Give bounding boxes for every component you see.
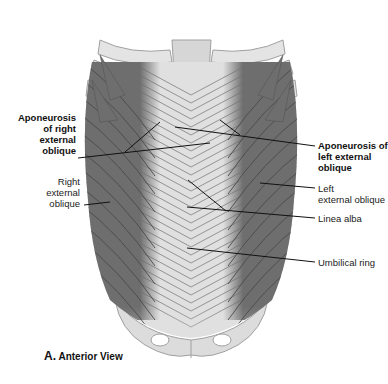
label-aponeurosis-left-external-oblique: Aponeurosis of left external oblique — [318, 140, 388, 173]
label-right-external-oblique: Right external oblique — [8, 176, 80, 209]
caption-letter: A. — [44, 349, 56, 363]
caption-text: Anterior View — [58, 351, 122, 362]
label-aponeurosis-right-external-oblique: Aponeurosis of right external oblique — [8, 112, 76, 156]
label-left-external-oblique: Left external oblique — [318, 183, 388, 205]
left-external-oblique-muscle — [223, 60, 303, 320]
figure-caption: A. Anterior View — [44, 349, 123, 363]
label-umbilical-ring: Umbilical ring — [318, 257, 388, 268]
label-linea-alba: Linea alba — [318, 213, 388, 224]
right-external-oblique-muscle — [80, 60, 160, 320]
